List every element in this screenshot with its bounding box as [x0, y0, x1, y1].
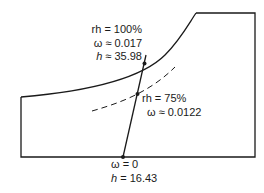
rh-75-curve — [92, 67, 175, 111]
saturation-omega-label: ω ≈ 0.017 — [94, 37, 142, 49]
enthalpy-value: ≈ 35.98 — [102, 50, 142, 62]
intermediate-point-marker — [136, 92, 140, 96]
psychrometric-diagram: rh = 100% ω ≈ 0.017 h ≈ 35.98 rh = 75% ω… — [0, 0, 264, 193]
saturation-enthalpy-label: h ≈ 35.98 — [96, 50, 142, 62]
intermediate-omega-label: ω ≈ 0.0122 — [147, 106, 201, 118]
process-line — [123, 55, 146, 157]
dry-enthalpy-label: h = 16.43 — [111, 172, 157, 184]
intermediate-rh-label: rh = 75% — [142, 92, 187, 104]
saturation-rh-label: rh = 100% — [92, 23, 143, 35]
dry-omega-label: ω = 0 — [111, 158, 138, 170]
enthalpy-value: = 16.43 — [117, 172, 157, 184]
saturation-point-marker — [143, 62, 147, 66]
